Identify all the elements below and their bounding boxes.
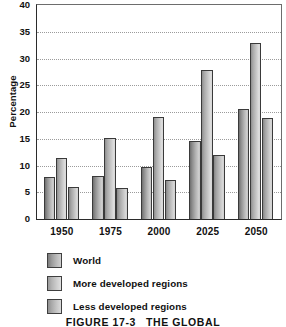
y-axis-tick-label: 0 [2,214,30,224]
legend-item: Less developed regions [47,295,277,318]
bar-more-developed-regions-2025 [201,70,213,219]
legend-swatch-icon [47,299,62,314]
bar-more-developed-regions-2050 [250,43,262,219]
y-axis-tick-label: 10 [2,161,30,171]
legend-item-label: World [73,255,101,266]
legend-swatch-icon [47,276,62,291]
legend-item-label: More developed regions [73,278,188,289]
figure-caption-text: THE GLOBAL [146,316,220,327]
x-axis-tick-label: 2025 [185,226,231,237]
x-axis-tick-label: 2050 [233,226,279,237]
y-axis-title: Percentage [7,63,18,141]
x-axis-tick-label: 1950 [39,226,85,237]
bar-less-developed-regions-2050 [262,118,274,219]
bar-world-1975 [92,176,104,219]
plot-area [36,4,282,220]
bar-more-developed-regions-1950 [56,158,68,219]
bar-less-developed-regions-2000 [165,180,177,219]
figure-caption: FIGURE 17-3THE GLOBAL [0,316,286,327]
legend-item: World [47,249,277,272]
legend-swatch-icon [47,253,62,268]
y-axis-tick-label: 35 [2,27,30,37]
x-axis-tick-label: 2000 [136,226,182,237]
bar-world-2000 [141,167,153,219]
y-axis-tick-label: 40 [2,0,30,10]
x-axis-tick-label: 1975 [88,226,134,237]
bar-more-developed-regions-2000 [153,117,165,219]
bar-series-layer [37,5,281,219]
bar-more-developed-regions-1975 [104,138,116,219]
bar-less-developed-regions-1975 [116,188,128,219]
figure-caption-number: FIGURE 17-3 [66,316,136,327]
bar-world-2050 [238,109,250,219]
legend-item-label: Less developed regions [73,301,187,312]
legend-item: More developed regions [47,272,277,295]
y-axis-tick-label: 5 [2,187,30,197]
chart-legend: WorldMore developed regionsLess develope… [47,249,277,318]
bar-world-2025 [189,141,201,219]
bar-less-developed-regions-1950 [68,187,80,219]
figure-container: Percentage 0510152025303540 195019752000… [0,0,286,327]
bar-less-developed-regions-2025 [213,155,225,219]
bar-world-1950 [44,177,56,219]
